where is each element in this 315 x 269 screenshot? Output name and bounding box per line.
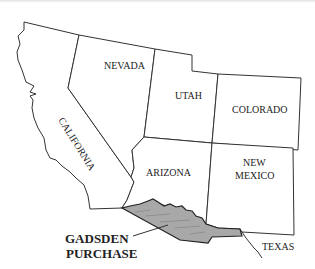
- label-arizona: ARIZONA: [146, 167, 192, 178]
- label-texas: TEXAS: [262, 241, 294, 252]
- map-canvas: NEVADA UTAH COLORADO ARIZONA NEW MEXICO …: [0, 0, 315, 269]
- label-new-mexico-line1: NEW: [243, 157, 266, 168]
- texas-border: [242, 232, 262, 258]
- callout-line1: GADSDEN: [65, 231, 129, 246]
- label-new-mexico-line2: MEXICO: [235, 170, 274, 181]
- label-colorado: COLORADO: [232, 104, 288, 115]
- label-utah: UTAH: [175, 90, 202, 101]
- callout-line2: PURCHASE: [66, 246, 138, 261]
- label-nevada: NEVADA: [104, 60, 146, 71]
